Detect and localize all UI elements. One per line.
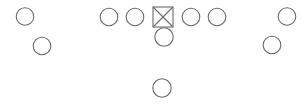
player-circle[interactable] [182, 8, 200, 26]
player-right-tackle[interactable]: Right Tackle [208, 8, 226, 26]
player-circle[interactable] [100, 8, 118, 26]
formation-canvas: Split End LeftWingback LeftLeft TackleLe… [0, 0, 306, 105]
player-split-end-left[interactable]: Split End Left [16, 8, 34, 26]
player-split-end-right[interactable]: Split End Right [278, 8, 296, 26]
player-circle[interactable] [33, 37, 51, 55]
player-center[interactable]: Center [153, 7, 173, 27]
player-circle[interactable] [155, 28, 173, 46]
player-circle[interactable] [126, 8, 144, 26]
player-circle[interactable] [208, 8, 226, 26]
player-tailback[interactable]: Tailback [153, 79, 171, 97]
player-circle[interactable] [153, 79, 171, 97]
player-quarterback[interactable]: Quarterback [155, 28, 173, 46]
player-wingback-right[interactable]: Wingback Right [263, 36, 281, 54]
player-circle[interactable] [16, 8, 34, 26]
player-left-guard[interactable]: Left Guard [126, 8, 144, 26]
player-circle[interactable] [278, 8, 296, 26]
player-wingback-left[interactable]: Wingback Left [33, 37, 51, 55]
player-right-guard[interactable]: Right Guard [182, 8, 200, 26]
player-circle[interactable] [263, 36, 281, 54]
football-formation-diagram: Split End LeftWingback LeftLeft TackleLe… [0, 0, 306, 105]
player-left-tackle[interactable]: Left Tackle [100, 8, 118, 26]
